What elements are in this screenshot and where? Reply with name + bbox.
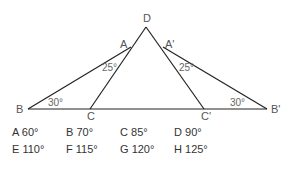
- angle-label-a: 25°: [102, 63, 117, 73]
- option-f[interactable]: F 115°: [66, 144, 120, 155]
- point-label-b: B: [16, 104, 23, 115]
- angle-label-b-prime: 30°: [230, 98, 245, 108]
- option-a[interactable]: A 60°: [12, 127, 66, 138]
- answer-options: A 60° B 70° C 85° D 90° E 110° F 115° G …: [12, 127, 228, 155]
- option-c[interactable]: C 85°: [120, 127, 174, 138]
- angle-label-a-prime: 25°: [179, 63, 194, 73]
- point-label-c: C: [87, 111, 95, 122]
- point-label-a-prime: A': [165, 39, 174, 50]
- segment-dc-prime: [146, 27, 204, 109]
- option-e[interactable]: E 110°: [12, 144, 66, 155]
- point-label-d: D: [143, 13, 151, 24]
- segment-ba: [28, 47, 131, 109]
- point-label-a: A: [120, 39, 127, 50]
- point-label-c-prime: C': [201, 111, 211, 122]
- option-h[interactable]: H 125°: [174, 144, 228, 155]
- segment-a-prime-b-prime: [163, 47, 267, 109]
- option-g[interactable]: G 120°: [120, 144, 174, 155]
- segment-cd: [90, 27, 146, 109]
- option-b[interactable]: B 70°: [66, 127, 120, 138]
- option-d[interactable]: D 90°: [174, 127, 228, 138]
- angle-label-b: 30°: [48, 98, 63, 108]
- point-label-b-prime: B': [271, 104, 280, 115]
